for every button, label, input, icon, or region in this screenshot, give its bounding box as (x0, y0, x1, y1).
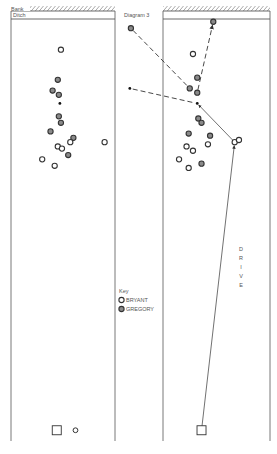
gregory-bowl (195, 90, 200, 95)
gregory-bowl (186, 131, 191, 136)
left-rink: Bank Ditch (10, 6, 115, 442)
legend-bryant-label: BRYANT (126, 297, 148, 303)
bryant-bowl (58, 47, 63, 52)
bank-label: Bank (11, 6, 24, 12)
mat (52, 426, 61, 435)
gregory-bowl (58, 120, 63, 125)
gregory-bowl (56, 114, 61, 119)
gregory-bowl (187, 86, 192, 91)
right-rink: DRIVE (128, 6, 270, 441)
gregory-bowl (55, 77, 60, 82)
bryant-bowl (68, 140, 73, 145)
bryant-bowl (52, 163, 57, 168)
bank-hatch (163, 6, 270, 11)
mat (197, 426, 206, 435)
drive-letter: V (239, 273, 243, 279)
legend-gregory-label: GREGORY (126, 306, 154, 312)
bryant-bowl (59, 146, 64, 151)
legend-title: Key (119, 288, 129, 294)
jack (58, 102, 61, 105)
gregory-bowl (199, 161, 204, 166)
drive-letter: E (239, 282, 243, 288)
jack (196, 102, 199, 105)
dashed-path (198, 25, 213, 90)
bryant-bowl (184, 144, 189, 149)
gregory-bowl (199, 120, 204, 125)
bryant-bowl (186, 165, 191, 170)
drive-path (202, 146, 234, 428)
legend-gregory-swatch (119, 306, 124, 311)
left-balls-group (40, 47, 108, 435)
gregory-bowl (50, 88, 55, 93)
jack (128, 87, 131, 90)
bryant-bowl (102, 140, 107, 145)
gregory-bowl (211, 19, 216, 24)
legend: Key BRYANT GREGORY (119, 288, 154, 312)
gregory-bowl (195, 75, 200, 80)
right-paths-group (133, 25, 235, 427)
bryant-bowl (205, 142, 210, 147)
bryant-bowl (40, 157, 45, 162)
drive-label: DRIVE (239, 246, 243, 288)
legend-bryant-swatch (119, 297, 124, 302)
drive-letter: R (239, 255, 243, 261)
bryant-bowl (236, 137, 241, 142)
drive-letter: I (240, 264, 242, 270)
gregory-bowl (56, 92, 61, 97)
bryant-bowl (73, 428, 78, 433)
gregory-bowl (128, 26, 133, 31)
diagram-title: Diagram 3 (124, 12, 149, 18)
gregory-bowl (66, 152, 71, 157)
bowls-diagram: Bank Ditch DRIVE Diagram 3 Key BRYANT GR… (0, 0, 277, 454)
gregory-bowl (207, 133, 212, 138)
bryant-bowl (190, 148, 195, 153)
drive-letter: D (239, 246, 243, 252)
dashed-path (133, 89, 196, 103)
bryant-bowl (190, 51, 195, 56)
ditch-label: Ditch (13, 12, 26, 18)
dashed-path (133, 30, 187, 86)
gregory-bowl (48, 129, 53, 134)
bryant-bowl (176, 157, 181, 162)
